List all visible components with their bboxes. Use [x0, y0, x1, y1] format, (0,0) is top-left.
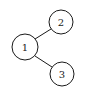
node-3: 3 — [50, 62, 74, 86]
edge-1-2 — [35, 29, 51, 39]
tree-diagram: 1 2 3 — [0, 0, 85, 93]
node-1: 1 — [12, 34, 38, 60]
node-2: 2 — [49, 10, 73, 34]
node-2-label: 2 — [58, 17, 64, 28]
edge-1-3 — [35, 56, 52, 67]
node-1-label: 1 — [22, 42, 28, 53]
node-3-label: 3 — [59, 69, 65, 80]
